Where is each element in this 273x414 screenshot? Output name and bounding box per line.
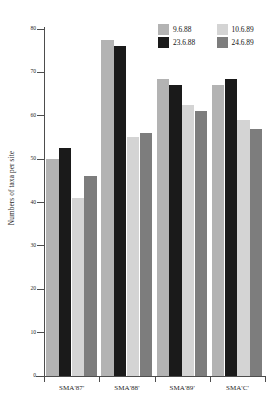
bar-SMA'87'-9.6.88 [46,159,58,376]
x-tick-0 [44,376,45,382]
legend-swatch-10.6.89 [217,24,228,35]
y-tick-30 [37,245,44,246]
y-tick-50 [37,159,44,160]
y-tick-label-20: 20 [22,286,36,292]
x-tick-end [265,376,266,382]
bar-SMA'89'-24.6.89 [195,111,207,376]
legend-label-9.6.88: 9.6.88 [173,26,191,33]
bar-SMA'C'-9.6.88 [212,85,224,376]
bar-SMA'87'-23.6.88 [59,148,71,376]
plot-area [44,29,265,376]
bar-SMA'C'-24.6.89 [250,129,262,376]
bar-SMA'C'-23.6.88 [225,79,237,376]
legend-entry-9.6.88: 9.6.88 [158,24,208,35]
x-tick-1 [99,376,100,382]
legend-swatch-24.6.89 [217,37,228,48]
bar-SMA'88'-10.6.89 [127,137,139,376]
y-tick-label-40: 40 [22,200,36,206]
bar-SMA'88'-24.6.89 [140,133,152,376]
legend-entry-23.6.88: 23.6.88 [158,37,208,48]
bar-SMA'89'-23.6.88 [169,85,181,376]
bar-SMA'87'-10.6.89 [72,198,84,376]
y-tick-20 [37,289,44,290]
legend-label-24.6.89: 24.6.89 [232,39,254,46]
legend-label-23.6.88: 23.6.88 [173,39,195,46]
y-tick-80 [37,29,44,30]
x-tick-3 [210,376,211,382]
y-tick-label-10: 10 [22,330,36,336]
x-axis-label-1: SMA'88' [99,384,154,392]
y-axis-title: Numbers of taxa per site [0,0,24,376]
y-tick-40 [37,202,44,203]
y-tick-10 [37,332,44,333]
y-tick-0 [37,376,44,377]
bar-SMA'C'-10.6.89 [237,120,249,376]
y-tick-60 [37,115,44,116]
x-axis-label-2: SMA'89' [155,384,210,392]
x-axis-label-3: SMA'C' [210,384,265,392]
bar-SMA'88'-23.6.88 [114,46,126,376]
y-tick-label-80: 80 [22,26,36,32]
x-axis-label-0: SMA'87' [44,384,99,392]
y-tick-label-50: 50 [22,156,36,162]
legend-swatch-9.6.88 [158,24,169,35]
legend-swatch-23.6.88 [158,37,169,48]
chart-legend: 9.6.8810.6.8923.6.8824.6.89 [158,24,266,48]
bar-chart: Numbers of taxa per site 010203040506070… [0,0,273,414]
x-tick-2 [155,376,156,382]
legend-entry-24.6.89: 24.6.89 [217,37,267,48]
y-tick-label-60: 60 [22,113,36,119]
bar-SMA'87'-24.6.89 [84,176,96,376]
legend-label-10.6.89: 10.6.89 [232,26,254,33]
y-tick-label-70: 70 [22,69,36,75]
bar-SMA'88'-9.6.88 [101,40,113,376]
y-tick-label-30: 30 [22,243,36,249]
y-axis-title-text: Numbers of taxa per site [8,151,16,225]
bar-SMA'89'-9.6.88 [157,79,169,376]
bar-SMA'89'-10.6.89 [182,105,194,376]
y-tick-70 [37,72,44,73]
legend-entry-10.6.89: 10.6.89 [217,24,267,35]
y-tick-label-0: 0 [22,373,36,379]
